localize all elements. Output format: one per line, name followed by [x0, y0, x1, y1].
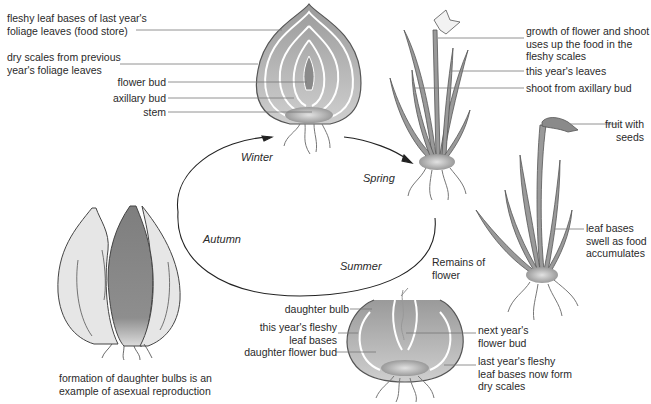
spring-plant-illustration [390, 10, 470, 200]
label-this-years-fleshy-bases: this year's fleshy leaf bases [260, 321, 337, 346]
caption-asexual-reproduction: formation of daughter bulbs is an exampl… [59, 372, 212, 397]
label-daughter-flower-bud: daughter flower bud [244, 346, 337, 359]
summer-plant-illustration [476, 118, 578, 321]
label-stem: stem [143, 106, 166, 119]
label-next-years-flower-bud: next year's flower bud [478, 324, 528, 349]
label-fleshy-leaf-bases: fleshy leaf bases of last year's foliage… [7, 12, 147, 37]
winter-bulb-illustration [256, 4, 361, 154]
label-leaf-bases-swell: leaf bases swell as food accumulates [586, 222, 647, 260]
label-last-years-dry-scales: last year's fleshy leaf bases now form d… [478, 355, 572, 393]
label-dry-scales-previous: dry scales from previous year's foliage … [7, 51, 121, 76]
label-daughter-bulb: daughter bulb [285, 303, 349, 316]
label-axillary-bud: axillary bud [113, 92, 166, 105]
label-this-years-leaves: this year's leaves [526, 65, 606, 78]
season-summer: Summer [340, 260, 382, 272]
label-remains-of-flower: Remains of flower [432, 256, 485, 281]
life-cycle-loop [177, 136, 435, 296]
autumn-bulb-illustration [347, 290, 463, 402]
season-autumn: Autumn [203, 233, 241, 245]
season-winter: Winter [241, 151, 273, 163]
label-fruit-with-seeds: fruit with seeds [605, 118, 644, 143]
label-flower-bud: flower bud [118, 76, 166, 89]
onion-daughter-bulb-illustration [58, 206, 180, 360]
label-shoot-axillary-bud: shoot from axillary bud [526, 82, 632, 95]
season-spring: Spring [363, 172, 395, 184]
label-growth-uses-food: growth of flower and shoot uses up the f… [526, 25, 649, 63]
